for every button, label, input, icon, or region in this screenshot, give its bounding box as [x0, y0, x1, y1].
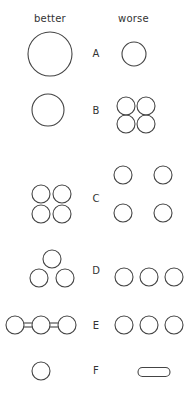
row-d-worse-shape — [115, 268, 183, 286]
row-e-worse-shape — [115, 316, 183, 334]
row-a-worse-shape — [122, 42, 146, 66]
row-f-worse-shape — [138, 368, 170, 377]
comparison-diagram — [0, 0, 192, 401]
row-d-better-shape — [30, 250, 74, 287]
row-e-better-shape — [6, 316, 76, 334]
row-c-better-shape — [32, 185, 71, 223]
row-a-better-shape — [28, 32, 72, 76]
row-b-better-shape — [32, 94, 64, 126]
row-b-worse-shape — [117, 97, 155, 133]
row-c-worse-shape — [114, 166, 172, 222]
row-f-better-shape — [32, 362, 50, 380]
